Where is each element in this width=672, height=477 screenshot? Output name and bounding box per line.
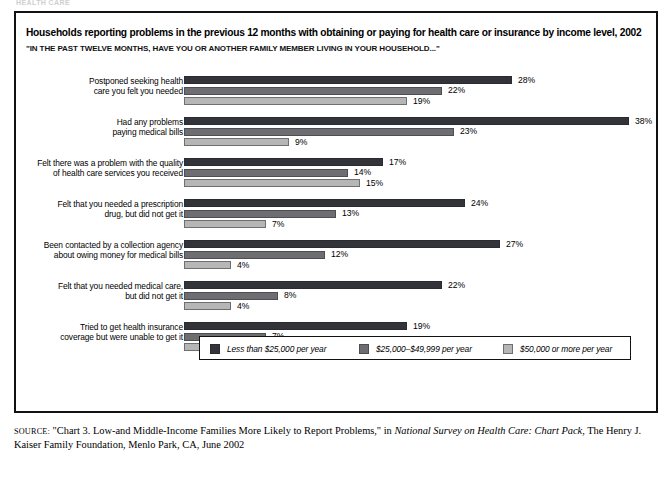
category-label: Had any problemspaying medical bills (0, 117, 183, 138)
bar-row: 22% (184, 87, 654, 95)
bar-value-label: 22% (448, 280, 465, 290)
bar-value-label: 17% (389, 157, 406, 167)
bar-row: 24% (184, 199, 654, 207)
legend-swatch-icon (503, 344, 513, 354)
bar (184, 138, 289, 146)
category-label: Felt that you needed a prescriptiondrug,… (0, 199, 183, 220)
bar (184, 302, 231, 310)
bar-row: 4% (184, 302, 654, 310)
bar-row: 27% (184, 240, 654, 248)
category-label-line: of health care services you received (0, 168, 183, 179)
category-label-line: care you felt you needed (0, 86, 183, 97)
bar (184, 281, 442, 289)
bar-row: 14% (184, 169, 654, 177)
bar-value-label: 27% (506, 239, 523, 249)
bar-value-label: 9% (295, 137, 307, 147)
bar-value-label: 19% (413, 96, 430, 106)
bar (184, 251, 325, 259)
bar (184, 76, 512, 84)
bar-row: 22% (184, 281, 654, 289)
chart-title: Households reporting problems in the pre… (26, 27, 650, 39)
bar-value-label: 38% (635, 116, 652, 126)
bar-value-label: 28% (518, 75, 535, 85)
bar-row: 12% (184, 251, 654, 259)
bar-value-label: 15% (366, 178, 383, 188)
bar (184, 199, 465, 207)
category-label-line: Postponed seeking health (0, 76, 183, 87)
chart-legend: Less than $25,000 per year $25,000–$49,9… (199, 336, 631, 360)
bar (184, 210, 336, 218)
legend-label: $25,000–$49,999 per year (376, 344, 472, 354)
bar (184, 261, 231, 269)
bar (184, 322, 407, 330)
bar (184, 158, 383, 166)
bar-value-label: 24% (471, 198, 488, 208)
bar (184, 292, 278, 300)
legend-swatch-icon (210, 344, 220, 354)
legend-swatch-icon (359, 344, 369, 354)
bar-row: 15% (184, 179, 654, 187)
bar-value-label: 23% (460, 126, 477, 136)
bar-value-label: 4% (237, 260, 249, 270)
bar-value-label: 14% (354, 167, 371, 177)
bar-row: 13% (184, 210, 654, 218)
bar-row: 23% (184, 128, 654, 136)
category-label-line: Tried to get health insurance (0, 322, 183, 333)
category-label: Felt there was a problem with the qualit… (0, 158, 183, 179)
bar-row: 8% (184, 292, 654, 300)
category-label-line: Felt that you needed a prescription (0, 199, 183, 210)
legend-label: $50,000 or more per year (520, 344, 612, 354)
category-label-line: about owing money for medical bills (0, 250, 183, 261)
bar (184, 169, 348, 177)
chart-subtitle: "IN THE PAST TWELVE MONTHS, HAVE YOU OR … (26, 44, 650, 54)
bar-value-label: 12% (331, 249, 348, 259)
source-pre: "Chart 3. Low-and Middle-Income Families… (50, 425, 394, 436)
bar-row: 19% (184, 322, 654, 330)
category-label: Postponed seeking healthcare you felt yo… (0, 76, 183, 97)
bar-row: 17% (184, 158, 654, 166)
category-label-line: Felt that you needed medical care, (0, 281, 183, 292)
bar (184, 179, 360, 187)
chart-frame: Households reporting problems in the pre… (14, 11, 658, 413)
category-label-line: Had any problems (0, 117, 183, 128)
bar-value-label: 7% (272, 219, 284, 229)
bar (184, 220, 266, 228)
bar (184, 87, 442, 95)
legend-item-low-income: Less than $25,000 per year (210, 343, 326, 355)
category-label-line: drug, but did not get it (0, 209, 183, 220)
plot-area: Postponed seeking healthcare you felt yo… (16, 76, 660, 376)
bar (184, 128, 454, 136)
bar-value-label: 8% (284, 290, 296, 300)
bar (184, 97, 407, 105)
bar-row: 4% (184, 261, 654, 269)
bar-value-label: 4% (237, 301, 249, 311)
category-label: Felt that you needed medical care,but di… (0, 281, 183, 302)
bar-row: 9% (184, 138, 654, 146)
legend-item-middle-income: $25,000–$49,999 per year (359, 343, 472, 355)
bar-value-label: 22% (448, 85, 465, 95)
category-label: Been contacted by a collection agencyabo… (0, 240, 183, 261)
source-label: SOURCE: (14, 427, 50, 436)
legend-label: Less than $25,000 per year (227, 344, 326, 354)
category-label-line: coverage but were unable to get it (0, 332, 183, 343)
bar (184, 117, 629, 125)
category-label-line: but did not get it (0, 291, 183, 302)
bar-row: 19% (184, 97, 654, 105)
source-note: SOURCE: "Chart 3. Low-and Middle-Income … (14, 424, 662, 451)
bar-row: 38% (184, 117, 654, 125)
category-label-line: Felt there was a problem with the qualit… (0, 158, 183, 169)
bar-row: 28% (184, 76, 654, 84)
legend-item-high-income: $50,000 or more per year (503, 343, 612, 355)
chart-page: HEALTH CARE Households reporting problem… (0, 0, 672, 477)
bar-value-label: 19% (413, 321, 430, 331)
category-label: Tried to get health insurancecoverage bu… (0, 322, 183, 343)
bar-value-label: 13% (342, 208, 359, 218)
category-label-line: Been contacted by a collection agency (0, 240, 183, 251)
bar-row: 7% (184, 220, 654, 228)
page-running-header: HEALTH CARE (16, 0, 70, 8)
category-label-line: paying medical bills (0, 127, 183, 138)
bar (184, 240, 500, 248)
source-publication-title: National Survey on Health Care: Chart Pa… (394, 425, 582, 436)
